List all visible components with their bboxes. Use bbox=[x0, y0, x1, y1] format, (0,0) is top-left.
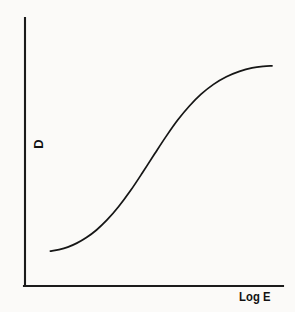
x-axis-label: Log E bbox=[239, 291, 271, 304]
plot-canvas bbox=[0, 0, 295, 312]
figure-background bbox=[0, 0, 295, 312]
characteristic-curve-figure: D Log E bbox=[0, 0, 295, 312]
y-axis-label: D bbox=[27, 136, 49, 152]
